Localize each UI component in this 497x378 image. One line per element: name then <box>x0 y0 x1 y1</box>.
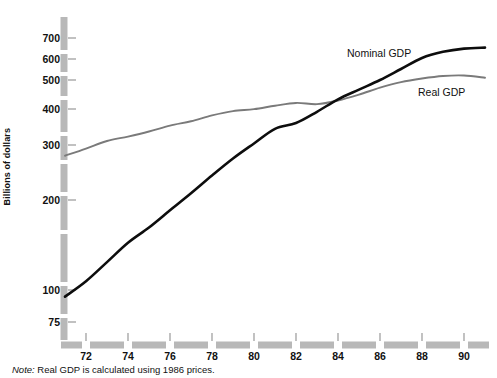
x-tick-80: 80 <box>242 351 266 361</box>
gdp-log-chart: Billions of dollars <box>0 0 497 378</box>
y-tick-700: 700 <box>26 33 60 43</box>
y-tick-600: 600 <box>26 54 60 64</box>
y-tick-400: 400 <box>26 104 60 114</box>
chart-note-prefix: Note: <box>12 364 35 375</box>
x-tick-90: 90 <box>452 351 476 361</box>
x-tick-76: 76 <box>158 351 182 361</box>
chart-note-body: Real GDP is calculated using 1986 prices… <box>35 364 215 375</box>
x-tick-84: 84 <box>326 351 350 361</box>
y-tick-200: 200 <box>26 195 60 205</box>
chart-canvas <box>0 0 497 378</box>
series-line-nominal-gdp <box>65 48 485 297</box>
x-axis <box>61 333 489 345</box>
x-tick-86: 86 <box>368 351 392 361</box>
x-tick-72: 72 <box>74 351 98 361</box>
chart-note: Note: Real GDP is calculated using 1986 … <box>12 364 215 375</box>
y-tick-75: 75 <box>26 317 60 327</box>
y-tick-300: 300 <box>26 140 60 150</box>
x-tick-78: 78 <box>200 351 224 361</box>
x-tick-88: 88 <box>410 351 434 361</box>
series-label-real-gdp: Real GDP <box>418 86 465 98</box>
x-tick-74: 74 <box>116 351 140 361</box>
data-series-layer <box>65 48 485 297</box>
y-tick-500: 500 <box>26 75 60 85</box>
series-label-nominal-gdp: Nominal GDP <box>347 47 411 59</box>
y-tick-100: 100 <box>26 285 60 295</box>
x-tick-82: 82 <box>284 351 308 361</box>
